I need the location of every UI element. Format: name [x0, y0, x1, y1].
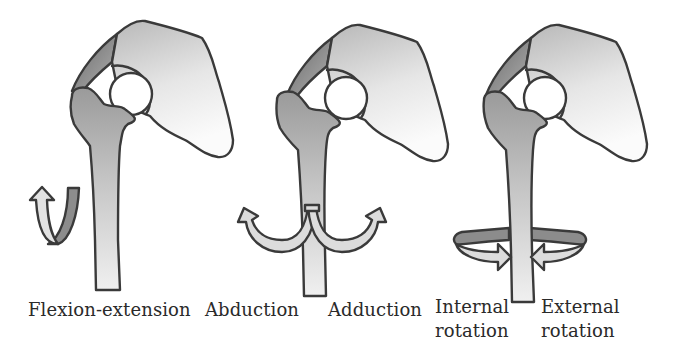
femur-shape — [276, 91, 339, 296]
rotation-band-right — [530, 228, 586, 245]
panel-flexion-extension — [30, 21, 233, 290]
panel-abduction-adduction — [238, 25, 448, 296]
rotation-band-left — [454, 228, 509, 245]
arrow-junction — [305, 205, 319, 211]
label-external-rotation-line2: rotation — [541, 320, 615, 342]
femur-shape — [71, 87, 135, 290]
external-rotation-arrow-icon — [531, 244, 584, 270]
flexion-arrow-icon — [30, 187, 58, 244]
label-flexion-extension: Flexion-extension — [28, 299, 191, 321]
label-internal-rotation-line2: rotation — [435, 320, 509, 342]
femur-shape — [484, 91, 547, 302]
panel-rotation — [454, 25, 647, 302]
label-abduction: Abduction — [205, 299, 299, 321]
internal-rotation-arrow-icon — [456, 244, 511, 270]
label-external-rotation-line1: External — [541, 296, 620, 318]
label-adduction: Adduction — [328, 299, 422, 321]
label-internal-rotation-line1: Internal — [435, 296, 509, 318]
